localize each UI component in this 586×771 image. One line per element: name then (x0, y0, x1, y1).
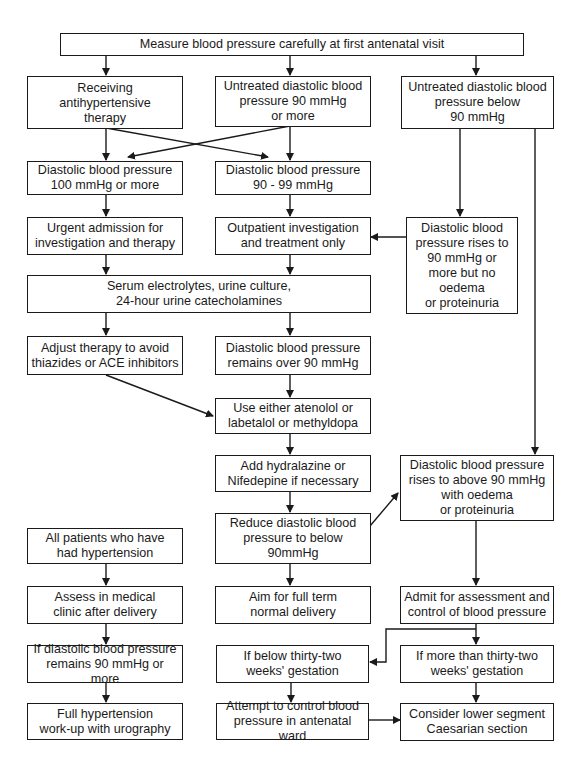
arrow-untreated-to-100 (128, 126, 290, 157)
node-label: Add hydralazine or Nifedepine if necessa… (228, 459, 359, 489)
node-start: Measure blood pressure carefully at firs… (60, 33, 524, 56)
node-label: Use either atenolol or labetalol or meth… (228, 401, 358, 431)
arrow-adjust-to-drugs (106, 375, 213, 416)
node-untreated-90-plus: Untreated diastolic blood pressure 90 mm… (215, 76, 371, 127)
node-label: Diastolic blood pressure rises to above … (409, 458, 546, 518)
node-untreated-below-90: Untreated diastolic blood pressure below… (401, 76, 554, 129)
node-label: Urgent admission for investigation and t… (35, 221, 175, 251)
node-label: Consider lower segment Caesarian section (409, 707, 545, 737)
node-label: Outpatient investigation and treatment o… (227, 221, 359, 251)
node-add-hydralazine: Add hydralazine or Nifedepine if necessa… (215, 455, 371, 492)
arrow-receiving-to-90-99 (106, 128, 268, 157)
node-label: Measure blood pressure carefully at firs… (140, 37, 445, 52)
node-rises-with-oedema: Diastolic blood pressure rises to above … (400, 455, 554, 521)
node-label: Diastolic blood pressure remains over 90… (226, 341, 360, 371)
node-label: Untreated diastolic blood pressure below… (408, 80, 547, 125)
node-reduce-dbp: Reduce diastolic blood pressure to below… (215, 513, 371, 564)
node-label: Attempt to control blood pressure in ant… (220, 699, 365, 744)
node-label: Assess in medical clinic after delivery (53, 590, 157, 620)
node-label: Adjust therapy to avoid thiazides or ACE… (32, 341, 179, 371)
node-label: Reduce diastolic blood pressure to below… (230, 516, 357, 561)
node-control-ward: Attempt to control blood pressure in ant… (216, 703, 369, 740)
node-label: Diastolic blood pressure rises to 90 mmH… (415, 221, 508, 311)
node-receiving-therapy: Receiving antihypertensive therapy (27, 76, 183, 129)
node-rises-no-oedema: Diastolic blood pressure rises to 90 mmH… (406, 217, 518, 314)
node-label: If more than thirty-two weeks' gestation (416, 649, 538, 679)
node-label: Full hypertension work-up with urography (40, 707, 171, 737)
node-dbp-100-plus: Diastolic blood pressure 100 mmHg or mor… (27, 161, 183, 195)
node-all-patients: All patients who have had hypertension (27, 528, 183, 564)
node-below-32-weeks: If below thirty-two weeks' gestation (216, 645, 369, 683)
node-label: All patients who have had hypertension (45, 531, 164, 561)
node-label: Serum electrolytes, urine culture, 24-ho… (107, 279, 291, 309)
node-assess-clinic: Assess in medical clinic after delivery (27, 586, 183, 624)
node-dbp-90-99: Diastolic blood pressure 90 - 99 mmHg (215, 161, 371, 195)
node-outpatient: Outpatient investigation and treatment o… (215, 217, 371, 255)
node-admit-assessment: Admit for assessment and control of bloo… (400, 586, 554, 624)
node-full-workup: Full hypertension work-up with urography (27, 703, 183, 740)
node-label: Admit for assessment and control of bloo… (404, 590, 550, 620)
node-adjust-therapy: Adjust therapy to avoid thiazides or ACE… (27, 336, 183, 375)
node-caesarian: Consider lower segment Caesarian section (400, 703, 554, 741)
node-label: Receiving antihypertensive therapy (31, 81, 179, 126)
node-label: If diastolic blood pressure remains 90 m… (31, 642, 179, 687)
node-label: Diastolic blood pressure 100 mmHg or mor… (38, 163, 172, 193)
node-serum-tests: Serum electrolytes, urine culture, 24-ho… (27, 275, 371, 313)
node-label: If below thirty-two weeks' gestation (244, 649, 342, 679)
node-use-drugs: Use either atenolol or labetalol or meth… (215, 398, 371, 434)
node-remains-90-plus: If diastolic blood pressure remains 90 m… (27, 645, 183, 683)
node-label: Diastolic blood pressure 90 - 99 mmHg (226, 163, 360, 193)
node-label: Aim for full term normal delivery (249, 590, 337, 620)
node-more-32-weeks: If more than thirty-two weeks' gestation (400, 645, 554, 683)
node-full-term: Aim for full term normal delivery (215, 586, 371, 624)
arrow-reduce-to-oedema (370, 493, 398, 526)
node-label: Untreated diastolic blood pressure 90 mm… (224, 79, 363, 124)
node-urgent-admission: Urgent admission for investigation and t… (27, 217, 183, 255)
node-remains-over-90: Diastolic blood pressure remains over 90… (215, 336, 371, 375)
